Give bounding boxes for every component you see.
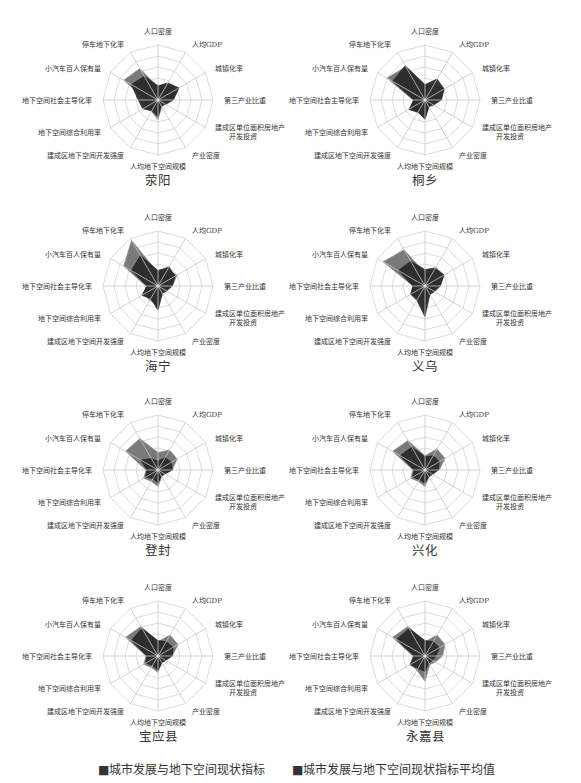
center-dot <box>423 654 426 657</box>
city-title: 永嘉县 <box>406 729 445 744</box>
axis-label: 地下空间社会主导化率 <box>289 652 359 661</box>
axis-label: 小汽车百人保有量 <box>312 64 368 73</box>
axis-label: 人口密度 <box>144 397 172 406</box>
current-series-polygon <box>398 261 444 317</box>
axis-label: 第三产业比重 <box>224 466 266 475</box>
radar-chart-7: 人口密度人均GDP城镇化率第三产业比重建成区单位面积房地产开发投资产业密度人均地… <box>289 583 552 744</box>
axis-label: 第三产业比重 <box>224 96 266 105</box>
axis-label: 小汽车百人保有量 <box>312 620 368 629</box>
axis-label: 人均GDP <box>459 40 489 49</box>
axis-label: 建成区单位面积房地产 <box>215 123 285 132</box>
axis-label: 第三产业比重 <box>224 652 266 661</box>
axis-label: 开发投资 <box>229 132 257 141</box>
axis-label: 人均地下空间规模 <box>397 162 453 171</box>
axis-label: 城镇化率 <box>482 620 510 629</box>
axis-label: 停车地下化率 <box>82 226 124 235</box>
axis-label: 小汽车百人保有量 <box>45 620 101 629</box>
axis-label: 城镇化率 <box>215 620 243 629</box>
axis-label: 建成区单位面积房地产 <box>482 679 552 688</box>
axis-label: 开发投资 <box>496 132 524 141</box>
axis-label: 城镇化率 <box>482 434 510 443</box>
axis-label: 人均地下空间规模 <box>397 532 453 541</box>
axis-label: 人口密度 <box>144 27 172 36</box>
axis-label: 地下空间社会主导化率 <box>22 652 92 661</box>
axis-label: 小汽车百人保有量 <box>312 434 368 443</box>
axis-label: 人口密度 <box>411 583 439 592</box>
axis-label: 地下空间综合利用率 <box>38 128 101 137</box>
axis-label: 人均地下空间规模 <box>397 348 453 357</box>
axis-label: 建成区地下空间开发强度 <box>314 521 391 530</box>
legend-average-label: ■城市发展与地下空间现状指标平均值 <box>292 760 495 777</box>
axis-label: 地下空间综合利用率 <box>38 684 101 693</box>
axis-label: 产业密度 <box>459 521 487 530</box>
axis-label: 地下空间社会主导化率 <box>289 96 359 105</box>
axis-label: 产业密度 <box>192 337 220 346</box>
radar-chart-0: 人口密度人均GDP城镇化率第三产业比重建成区单位面积房地产开发投资产业密度人均地… <box>22 27 285 188</box>
axis-label: 开发投资 <box>229 502 257 511</box>
axis-label: 人均地下空间规模 <box>130 348 186 357</box>
legend-current: ■城市发展与地下空间现状指标 <box>98 760 265 777</box>
axis-label: 产业密度 <box>459 707 487 716</box>
radar-grid-figure: 人口密度人均GDP城镇化率第三产业比重建成区单位面积房地产开发投资产业密度人均地… <box>0 0 581 783</box>
axis-label: 建成区地下空间开发强度 <box>314 707 391 716</box>
axis-label: 人均GDP <box>192 410 222 419</box>
axis-label: 建成区单位面积房地产 <box>215 679 285 688</box>
city-title: 宝应县 <box>139 729 178 744</box>
axis-label: 产业密度 <box>192 521 220 530</box>
axis-label: 建成区地下空间开发强度 <box>47 707 124 716</box>
axis-label: 小汽车百人保有量 <box>45 64 101 73</box>
axis-label: 人均GDP <box>459 596 489 605</box>
axis-label: 建成区地下空间开发强度 <box>314 151 391 160</box>
axis-label: 地下空间综合利用率 <box>305 498 368 507</box>
axis-label: 开发投资 <box>496 502 524 511</box>
axis-label: 第三产业比重 <box>491 466 533 475</box>
axis-label: 开发投资 <box>496 318 524 327</box>
axis-label: 地下空间综合利用率 <box>38 314 101 323</box>
axis-label: 城镇化率 <box>215 64 243 73</box>
axis-label: 第三产业比重 <box>224 282 266 291</box>
center-dot <box>423 98 426 101</box>
axis-label: 地下空间综合利用率 <box>305 314 368 323</box>
axis-label: 地下空间社会主导化率 <box>22 466 92 475</box>
axis-label: 产业密度 <box>459 337 487 346</box>
axis-label: 建成区地下空间开发强度 <box>314 337 391 346</box>
city-title: 义乌 <box>412 359 438 374</box>
city-title: 登封 <box>145 543 171 558</box>
axis-label: 建成区地下空间开发强度 <box>47 151 124 160</box>
axis-label: 建成区单位面积房地产 <box>215 493 285 502</box>
radar-chart-6: 人口密度人均GDP城镇化率第三产业比重建成区单位面积房地产开发投资产业密度人均地… <box>22 583 285 744</box>
axis-label: 人均GDP <box>459 226 489 235</box>
center-dot <box>156 98 159 101</box>
axis-label: 人均GDP <box>192 40 222 49</box>
axis-label: 停车地下化率 <box>349 596 391 605</box>
axis-label: 停车地下化率 <box>349 226 391 235</box>
axis-label: 城镇化率 <box>215 434 243 443</box>
axis-label: 人均地下空间规模 <box>130 532 186 541</box>
axis-label: 建成区地下空间开发强度 <box>47 521 124 530</box>
axis-label: 停车地下化率 <box>349 40 391 49</box>
axis-label: 人均地下空间规模 <box>130 162 186 171</box>
axis-label: 人口密度 <box>144 213 172 222</box>
radar-chart-5: 人口密度人均GDP城镇化率第三产业比重建成区单位面积房地产开发投资产业密度人均地… <box>289 397 552 558</box>
city-title: 桐乡 <box>412 173 438 188</box>
axis-label: 地下空间社会主导化率 <box>289 466 359 475</box>
axis-label: 建成区单位面积房地产 <box>482 123 552 132</box>
radar-chart-3: 人口密度人均GDP城镇化率第三产业比重建成区单位面积房地产开发投资产业密度人均地… <box>289 213 552 374</box>
axis-label: 小汽车百人保有量 <box>312 250 368 259</box>
center-dot <box>423 284 426 287</box>
axis-label: 人均地下空间规模 <box>397 718 453 727</box>
axis-label: 城镇化率 <box>482 250 510 259</box>
axis-label: 人均GDP <box>192 596 222 605</box>
axis-label: 人口密度 <box>144 583 172 592</box>
legend-average: ■城市发展与地下空间现状指标平均值 <box>292 760 495 777</box>
center-dot <box>156 654 159 657</box>
axis-label: 人均地下空间规模 <box>130 718 186 727</box>
axis-label: 人均GDP <box>192 226 222 235</box>
axis-label: 地下空间综合利用率 <box>305 128 368 137</box>
axis-label: 建成区单位面积房地产 <box>482 309 552 318</box>
radar-chart-2: 人口密度人均GDP城镇化率第三产业比重建成区单位面积房地产开发投资产业密度人均地… <box>22 213 285 374</box>
axis-label: 建成区单位面积房地产 <box>482 493 552 502</box>
axis-label: 停车地下化率 <box>82 410 124 419</box>
axis-label: 地下空间社会主导化率 <box>22 282 92 291</box>
axis-label: 人均GDP <box>459 410 489 419</box>
